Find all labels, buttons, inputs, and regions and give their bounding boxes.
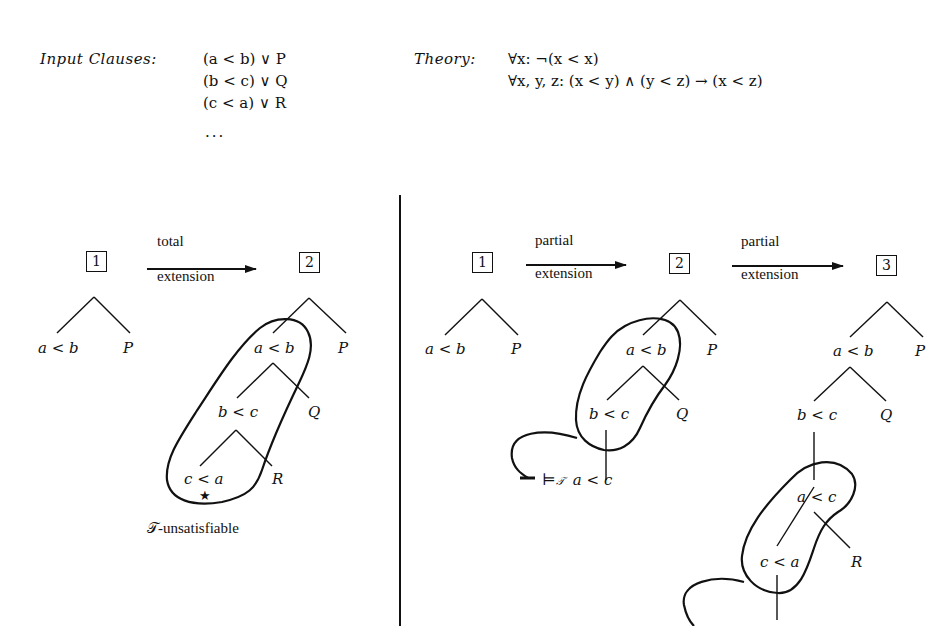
step-box-3: 3	[876, 255, 897, 276]
tree-node: b < c	[589, 405, 629, 423]
tree-node: Q	[308, 403, 320, 421]
tree-node: a < b	[38, 339, 79, 357]
arrow-label-bottom: extension	[157, 268, 215, 285]
arrow-label-top: total	[157, 233, 184, 250]
arrow-label-bottom: extension	[741, 266, 799, 283]
entailment: ⊨𝒯 a < c	[542, 470, 612, 489]
arrow-label-bottom: extension	[535, 265, 593, 282]
tree-node: P	[707, 341, 717, 359]
tree-node: c < a	[184, 470, 223, 488]
conflict-note: 𝒯-unsatisfiable	[147, 520, 239, 537]
tree-node: a < c	[797, 488, 836, 506]
step-box-2: 2	[299, 252, 320, 273]
star-icon: ★	[199, 488, 211, 503]
tree-node: P	[511, 340, 521, 358]
step-box-1: 1	[472, 252, 493, 273]
tree-node: Q	[880, 406, 892, 424]
arrow-label-top: partial	[535, 232, 573, 249]
tree-node: a < b	[254, 339, 295, 357]
tree-node: P	[338, 339, 348, 357]
tree-node: R	[851, 553, 862, 571]
tree-node: P	[915, 342, 925, 360]
tree-node: a < b	[425, 340, 466, 358]
tree-node: b < c	[218, 403, 258, 421]
tree-node: P	[123, 339, 133, 357]
tree-node: b < c	[797, 406, 837, 424]
step-box-2: 2	[669, 253, 690, 274]
entailed-literal: a < c	[573, 471, 612, 489]
tree-node: R	[272, 470, 283, 488]
tree-node: a < b	[626, 341, 667, 359]
tree-node: c < a	[760, 553, 799, 571]
entails-subscript: 𝒯	[556, 475, 564, 488]
arrow-label-top: partial	[741, 233, 779, 250]
entails-symbol: ⊨	[542, 470, 556, 489]
tree-node: Q	[676, 405, 688, 423]
tree-node: a < b	[833, 342, 874, 360]
step-box-1: 1	[86, 251, 107, 272]
diagram-lines	[0, 0, 952, 626]
